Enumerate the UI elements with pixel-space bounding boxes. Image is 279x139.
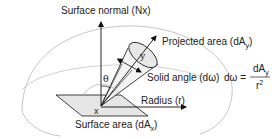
- hemisphere-dome-bottom: [22, 112, 60, 136]
- surface-normal-label: Surface normal (Nx): [61, 5, 150, 16]
- theta-arc: [101, 86, 111, 88]
- formula-denominator: r2: [256, 79, 263, 91]
- formula-lhs: dω =: [224, 72, 246, 83]
- theta-label: θ: [103, 73, 109, 84]
- solid-angle-label: Solid angle (dω): [147, 72, 219, 83]
- projected-area-label: Projected area (dAy): [162, 36, 252, 50]
- radius-label: Radius (r): [141, 95, 185, 106]
- surface-area-label: Surface area (dAx): [75, 119, 157, 132]
- solid-angle-formula: dω = dAy r2: [224, 63, 270, 91]
- formula-numerator: dAy: [253, 63, 269, 77]
- point-y-label: y: [139, 50, 146, 61]
- solid-angle-diagram: Surface normal (Nx) Projected area (dAy)…: [0, 0, 279, 139]
- point-x-label: x: [94, 106, 99, 116]
